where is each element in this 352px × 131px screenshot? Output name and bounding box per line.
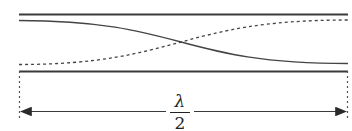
solid-wave-curve xyxy=(19,21,348,64)
lambda-symbol: λ xyxy=(166,93,194,112)
half-wavelength-label: λ 2 xyxy=(166,93,194,131)
denominator: 2 xyxy=(166,113,194,131)
